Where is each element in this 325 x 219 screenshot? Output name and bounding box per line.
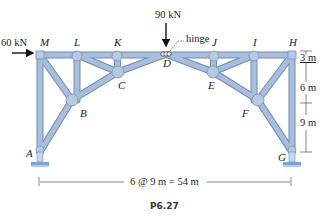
figure-caption: P6.27 [150, 201, 179, 211]
node-label-e: E [208, 80, 215, 91]
node-label-l: L [74, 37, 80, 48]
node-label-m: M [40, 37, 49, 48]
node-label-h: H [289, 37, 297, 48]
hinge-icon [161, 52, 171, 56]
height-dim-6m: 6 m [300, 83, 316, 94]
vertical-load-label: 90 kN [155, 10, 181, 21]
node-label-g: G [278, 152, 286, 163]
node-label-c: C [118, 80, 125, 91]
support-a-icon [31, 152, 49, 167]
height-dim-3m: 3 m [300, 53, 316, 64]
hinge-label: hinge [186, 34, 209, 45]
node-label-d: D [163, 58, 171, 69]
height-dimension-line [300, 51, 312, 152]
node-label-k: K [114, 37, 121, 48]
node-label-a: A [26, 148, 33, 159]
node-label-f: F [242, 108, 249, 119]
node-label-j: J [212, 37, 217, 48]
height-dim-9m: 9 m [300, 118, 316, 129]
horizontal-load-label: 60 kN [1, 38, 27, 49]
node-label-b: B [80, 108, 87, 119]
node-label-i: I [253, 37, 257, 48]
span-dim-label: 6 @ 9 m = 54 m [130, 177, 199, 188]
